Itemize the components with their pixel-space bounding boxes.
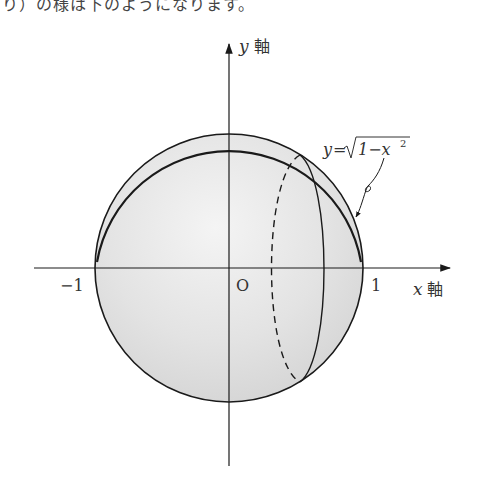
x-axis-label-var: x [413, 279, 423, 299]
curve-label-lhs: y [322, 140, 333, 159]
curve-label-eq: = [333, 140, 346, 159]
curve-label-sqrt-body: 1−x [358, 140, 391, 159]
x-axis-label-kanji: 軸 [427, 280, 443, 299]
curve-label-leader [356, 158, 384, 217]
curve-equation-label: y = 1−x 2 [322, 137, 410, 159]
origin-label: O [236, 276, 249, 295]
tick-label-neg-one: −1 [60, 276, 84, 295]
tick-label-pos-one: 1 [371, 276, 381, 295]
curve-label-exponent: 2 [400, 138, 406, 149]
y-axis-label-var: y [238, 36, 249, 56]
sphere-diagram: y 軸 x 軸 −1 O 1 y = 1−x 2 [0, 0, 478, 490]
y-axis-label-kanji: 軸 [254, 37, 270, 56]
